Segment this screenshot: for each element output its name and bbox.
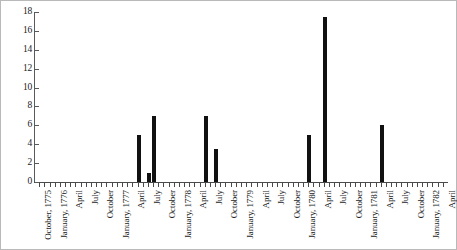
y-axis-label: 6 — [1, 120, 32, 129]
x-axis-tick — [106, 183, 107, 187]
x-axis-label: January, 1780 — [307, 190, 317, 239]
x-axis-label: July — [90, 190, 100, 205]
x-axis-tick — [55, 183, 56, 187]
x-axis-tick — [407, 183, 408, 187]
x-axis-tick — [427, 183, 428, 187]
x-axis-tick — [282, 183, 283, 187]
x-axis-tick — [241, 183, 242, 187]
bar — [147, 173, 151, 182]
x-axis-tick — [39, 183, 40, 187]
y-axis-label-text: 2 — [6, 158, 32, 167]
x-axis-tick — [412, 183, 413, 187]
x-axis-tick — [345, 183, 346, 187]
x-axis-tick — [288, 183, 289, 187]
x-axis-tick — [236, 183, 237, 187]
x-axis-tick — [272, 183, 273, 187]
x-axis-tick — [432, 183, 433, 187]
x-axis-tick — [381, 183, 382, 187]
x-axis-tick — [205, 183, 206, 187]
x-axis-tick — [194, 183, 195, 187]
x-axis-label: January, 1781 — [369, 190, 379, 239]
y-axis-label-text: 0 — [6, 177, 32, 186]
y-axis-label: 4 — [1, 139, 32, 148]
x-axis-label: January, 1778 — [183, 190, 193, 239]
x-axis-tick — [60, 183, 61, 187]
x-axis-tick — [298, 183, 299, 187]
y-axis-label: 12 — [1, 64, 32, 73]
y-axis-label-text: 14 — [6, 45, 32, 54]
x-axis-label: April — [74, 190, 84, 209]
x-axis-label: April — [323, 190, 333, 209]
x-axis-label: July — [152, 190, 162, 205]
x-axis-tick — [313, 183, 314, 187]
x-axis-label: October — [292, 190, 302, 218]
y-axis-label: 8 — [1, 101, 32, 110]
x-axis-label: October — [416, 190, 426, 218]
x-axis-tick — [225, 183, 226, 187]
x-axis-tick — [112, 183, 113, 187]
bar — [307, 135, 311, 182]
y-axis-label-text: 16 — [6, 26, 32, 35]
x-axis-label: July — [338, 190, 348, 205]
y-axis-label-text: 18 — [6, 7, 32, 16]
x-axis-tick — [143, 183, 144, 187]
bar — [323, 17, 327, 182]
x-axis-tick — [65, 183, 66, 187]
x-axis-tick — [179, 183, 180, 187]
x-axis-label: October — [167, 190, 177, 218]
x-axis-tick — [257, 183, 258, 187]
y-axis-label: 18 — [1, 7, 32, 16]
x-axis-tick — [246, 183, 247, 187]
x-axis-label: October, 1775 — [43, 190, 53, 240]
y-axis-label: 10 — [1, 83, 32, 92]
x-axis-tick — [262, 183, 263, 187]
x-axis-tick — [158, 183, 159, 187]
x-axis-tick — [376, 183, 377, 187]
y-axis-label-text: 10 — [6, 83, 32, 92]
x-axis-tick — [169, 183, 170, 187]
bar — [152, 116, 156, 182]
x-axis-label: July — [400, 190, 410, 205]
x-axis-tick — [86, 183, 87, 187]
x-axis-tick — [200, 183, 201, 187]
x-axis-label: January, 1777 — [121, 190, 131, 239]
x-axis-tick — [174, 183, 175, 187]
x-axis-tick — [350, 183, 351, 187]
x-axis-tick — [138, 183, 139, 187]
x-axis-tick — [355, 183, 356, 187]
x-axis-tick — [319, 183, 320, 187]
y-axis-label: 0 — [1, 177, 32, 186]
x-axis-label: October — [354, 190, 364, 218]
plot-area — [34, 12, 448, 182]
x-axis-label: April — [385, 190, 395, 209]
chart-figure: 024681012141618 October, 1775January, 17… — [0, 0, 457, 250]
x-axis-tick — [70, 183, 71, 187]
bar — [214, 149, 218, 182]
x-axis-tick — [220, 183, 221, 187]
x-axis-tick — [267, 183, 268, 187]
x-axis-tick — [101, 183, 102, 187]
x-axis-tick — [401, 183, 402, 187]
x-axis-tick — [50, 183, 51, 187]
x-axis-tick — [308, 183, 309, 187]
x-axis-label: April — [198, 190, 208, 209]
x-axis-label: April — [447, 190, 457, 209]
x-axis-tick — [184, 183, 185, 187]
x-axis-tick — [365, 183, 366, 187]
x-axis-label: July — [214, 190, 224, 205]
y-axis-label-text: 8 — [6, 101, 32, 110]
x-axis-tick — [153, 183, 154, 187]
x-axis-tick — [189, 183, 190, 187]
x-axis-label: January, 1779 — [245, 190, 255, 239]
x-axis-tick — [396, 183, 397, 187]
x-axis-tick — [91, 183, 92, 187]
x-axis-label: July — [276, 190, 286, 205]
x-axis-tick — [81, 183, 82, 187]
bar — [137, 135, 141, 182]
x-axis-tick — [370, 183, 371, 187]
x-axis-tick — [303, 183, 304, 187]
x-axis-tick — [386, 183, 387, 187]
x-axis-tick — [417, 183, 418, 187]
x-axis-tick — [443, 183, 444, 187]
x-axis-tick — [334, 183, 335, 187]
